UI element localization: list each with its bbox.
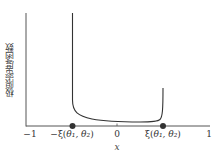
x-tick-label-neg-xi: −ξ(θ₁, θ₂) [50, 129, 93, 139]
x-tick-label-zero: 0 [114, 129, 120, 139]
pos-xi-theta: θ₁, θ₂ [154, 129, 178, 139]
neg-xi-theta: θ₁, θ₂ [66, 129, 90, 139]
neg-xi-prefix: −ξ( [50, 129, 66, 139]
y-axis-label: 极限密度函数 [2, 38, 16, 102]
x-tick-label-one: 1 [206, 129, 212, 139]
x-tick-label-neg1: −1 [23, 129, 36, 139]
pos-xi-close: ) [177, 129, 181, 139]
x-axis-label: x [114, 142, 119, 152]
density-curve [73, 13, 164, 122]
neg-xi-close: ) [90, 129, 94, 139]
x-tick-label-pos-xi: ξ(θ₁, θ₂) [145, 129, 181, 139]
